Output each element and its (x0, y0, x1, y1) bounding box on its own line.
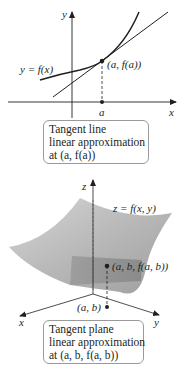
y-axis-3d-label: y (153, 316, 159, 328)
caption-line: at (a, b, f(a, b)) (49, 349, 138, 362)
tangent-line-caption: Tangent line linear approximation at (a,… (43, 120, 149, 164)
base-point (105, 305, 109, 309)
caption-line: linear approximation (49, 336, 138, 349)
point-3d-label: (a, b, f(a, b)) (112, 260, 169, 273)
caption-line: Tangent line (49, 123, 143, 136)
figure-canvas: y x y = f(x) (a, f(a)) a z z = f(x, y) (… (0, 0, 191, 370)
z-axis-label: z (81, 180, 87, 192)
caption-line: Tangent plane (49, 323, 138, 336)
y-axis-3d (93, 294, 159, 315)
tangent-point-3d (105, 264, 110, 269)
surface-label: z = f(x, y) (112, 202, 156, 215)
tangent-point (100, 59, 105, 64)
base-point-label: (a, b) (77, 301, 101, 314)
a-tick-point (100, 100, 104, 104)
caption-line: at (a, f(a)) (49, 149, 143, 162)
caption-line: linear approximation (49, 136, 143, 149)
tangent-plane-diagram: z z = f(x, y) (a, b, f(a, b)) (a, b) x y (9, 180, 172, 328)
x-axis-label: x (168, 106, 174, 118)
tangent-line (53, 12, 168, 97)
a-tick-label: a (99, 106, 105, 118)
x-axis-3d-label: x (18, 316, 24, 328)
y-axis-label: y (61, 8, 67, 20)
curve-label: y = f(x) (19, 63, 53, 76)
tangent-plane-caption: Tangent plane linear approximation at (a… (43, 320, 144, 364)
point-label: (a, f(a)) (107, 58, 142, 71)
tangent-line-diagram: y x y = f(x) (a, f(a)) a (8, 8, 176, 118)
